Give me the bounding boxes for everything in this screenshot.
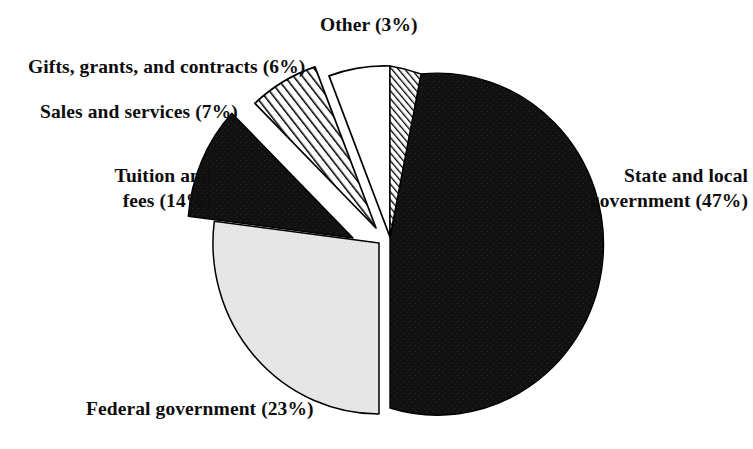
pie-label-gifts-grants-and-contracts: Gifts, grants, and contracts (6%) xyxy=(28,54,305,79)
pie-slice-state-and-local-government xyxy=(390,73,604,415)
pie-chart-figure: Other (3%) Gifts, grants, and contracts … xyxy=(0,0,753,449)
pie-label-state-and-local-government: State and local government (47%) xyxy=(576,163,748,213)
pie-slice-federal-government xyxy=(213,221,379,414)
pie-label-tuition-and-fees: Tuition and fees (14%) xyxy=(36,163,212,213)
pie-label-other: Other (3%) xyxy=(320,12,418,37)
pie-label-federal-government: Federal government (23%) xyxy=(86,396,314,421)
pie-label-sales-and-services: Sales and services (7%) xyxy=(40,99,238,124)
